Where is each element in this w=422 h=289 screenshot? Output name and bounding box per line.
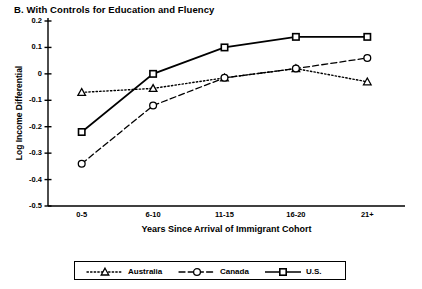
legend-label: Australia (128, 267, 162, 276)
legend-label: Canada (220, 267, 249, 276)
legend-label: U.S. (306, 267, 322, 276)
data-point (221, 74, 228, 81)
series-markers-canada (78, 55, 370, 168)
chart-panel: B. With Controls for Education and Fluen… (0, 0, 422, 289)
data-point (364, 55, 371, 62)
data-point (221, 44, 227, 50)
data-point (364, 34, 370, 40)
legend-item-canada[interactable]: Canada (177, 265, 249, 278)
plot-area (0, 0, 422, 289)
data-point (150, 102, 157, 109)
data-point (79, 129, 85, 135)
series-markers-u-s (79, 34, 371, 136)
chart-legend: AustraliaCanadaU.S. (74, 261, 346, 280)
data-point (293, 65, 300, 72)
data-point (293, 34, 299, 40)
data-point (78, 89, 86, 96)
legend-item-u-s[interactable]: U.S. (263, 265, 322, 278)
triangle-marker-icon (85, 266, 125, 278)
circle-marker-icon (177, 266, 217, 278)
data-point (78, 160, 85, 167)
data-point (150, 71, 156, 77)
legend-item-australia[interactable]: Australia (85, 265, 162, 278)
square-marker-icon (263, 266, 303, 278)
